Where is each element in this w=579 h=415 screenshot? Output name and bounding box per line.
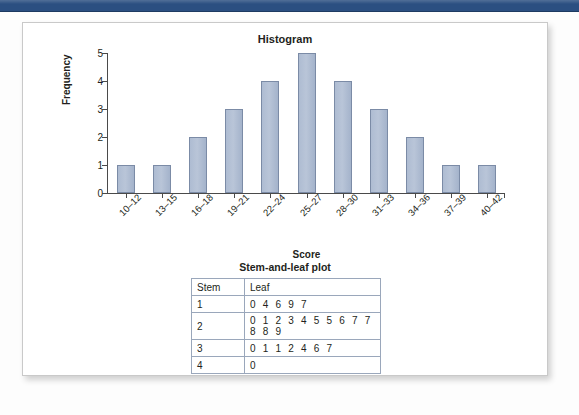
bar-cell: [108, 53, 144, 193]
y-tick-mark: [102, 137, 107, 138]
top-banner-bar: [0, 0, 579, 12]
banner-sheen: [0, 0, 579, 4]
y-tick-label: 3: [85, 104, 103, 115]
x-tick-label-cell: 13–15: [144, 199, 180, 243]
bar-cell: [433, 53, 469, 193]
cell-leaf: 0: [245, 357, 381, 374]
table-head: Stem Leaf: [192, 279, 381, 296]
bar-cell: [252, 53, 288, 193]
x-tick-label-cell: 37–39: [433, 199, 469, 243]
bar-cell: [325, 53, 361, 193]
y-axis-label: Frequency: [61, 54, 72, 105]
y-tick-mark: [102, 81, 107, 82]
x-tick-label-cell: 40–42: [469, 199, 505, 243]
y-tick-label: 4: [85, 76, 103, 87]
table-header-row: Stem Leaf: [192, 279, 381, 296]
cell-stem: 4: [192, 357, 245, 374]
x-tick-label-cell: 16–18: [180, 199, 216, 243]
content-card: Histogram Frequency 012345 10–1213–1516–…: [22, 22, 548, 376]
cell-stem: 3: [192, 340, 245, 357]
histogram-bar: [334, 81, 352, 193]
y-axis-ticks: 012345: [85, 53, 103, 193]
x-tick-label-cell: 31–33: [361, 199, 397, 243]
cell-leaf: 0 1 1 2 4 6 7: [245, 340, 381, 357]
histogram-bar: [478, 165, 496, 193]
stem-and-leaf-table: Stem Leaf 10 4 6 9 720 1 2 3 4 5 5 6 7 7…: [191, 278, 381, 374]
x-tick-label-cell: 25–27: [288, 199, 324, 243]
table-body: 10 4 6 9 720 1 2 3 4 5 5 6 7 7 8 8 930 1…: [192, 296, 381, 374]
table-row: 10 4 6 9 7: [192, 296, 381, 313]
x-axis-tick-labels: 10–1213–1516–1819–2122–2425–2728–3031–33…: [108, 199, 505, 243]
bar-cell: [144, 53, 180, 193]
table-row: 30 1 1 2 4 6 7: [192, 340, 381, 357]
histogram-bar: [406, 137, 424, 193]
x-tick-label-cell: 22–24: [252, 199, 288, 243]
histogram-bar: [189, 137, 207, 193]
y-tick-mark: [102, 53, 107, 54]
table-row: 20 1 2 3 4 5 5 6 7 7 8 8 9: [192, 313, 381, 340]
stem-leaf-title: Stem-and-leaf plot: [23, 261, 547, 273]
x-tick-label-cell: 19–21: [216, 199, 252, 243]
cell-leaf: 0 1 2 3 4 5 5 6 7 7 8 8 9: [245, 313, 381, 340]
histogram-bar: [370, 109, 388, 193]
histogram-bar: [153, 165, 171, 193]
y-tick-mark: [102, 109, 107, 110]
bar-cell: [361, 53, 397, 193]
cell-leaf: 0 4 6 9 7: [245, 296, 381, 313]
histogram-plot: Frequency 012345 10–1213–1516–1819–2122–…: [23, 53, 547, 213]
chart-title: Histogram: [23, 33, 547, 45]
x-axis-label: Score: [108, 249, 505, 260]
cell-stem: 2: [192, 313, 245, 340]
bar-cell: [216, 53, 252, 193]
x-tick-label-cell: 28–30: [325, 199, 361, 243]
histogram-bar: [117, 165, 135, 193]
bar-cell: [469, 53, 505, 193]
y-tick-label: 0: [85, 188, 103, 199]
bar-series: [108, 53, 505, 193]
histogram-bar: [225, 109, 243, 193]
column-header-leaf: Leaf: [245, 279, 381, 296]
x-tick-label-cell: 34–36: [397, 199, 433, 243]
y-tick-label: 1: [85, 160, 103, 171]
bar-cell: [180, 53, 216, 193]
bar-cell: [397, 53, 433, 193]
y-tick-mark: [102, 165, 107, 166]
histogram-bar: [261, 81, 279, 193]
x-tick-label-cell: 10–12: [108, 199, 144, 243]
histogram-bar: [442, 165, 460, 193]
histogram-bar: [298, 53, 316, 193]
y-tick-label: 2: [85, 132, 103, 143]
x-axis-end-tick: [504, 193, 505, 198]
y-tick-mark: [102, 193, 107, 194]
column-header-stem: Stem: [192, 279, 245, 296]
cell-stem: 1: [192, 296, 245, 313]
bar-cell: [288, 53, 324, 193]
table-row: 40: [192, 357, 381, 374]
y-tick-label: 5: [85, 48, 103, 59]
page-root: Histogram Frequency 012345 10–1213–1516–…: [0, 0, 579, 415]
